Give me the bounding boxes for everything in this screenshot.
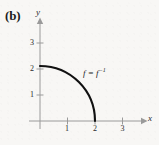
curve-annotation-exponent: −1 (99, 67, 106, 73)
curve-annotation-base: f = f (83, 68, 99, 78)
x-tick-label-2: 2 (90, 125, 100, 133)
x-axis-label: x (148, 114, 152, 123)
y-axis-label: y (36, 8, 40, 17)
y-tick-label-1: 1 (27, 91, 37, 99)
y-axis-arrowhead (37, 18, 43, 25)
x-tick-label-1: 1 (62, 125, 72, 133)
figure-panel-b: (b) y x 1 2 3 1 2 3 f = f−1 (0, 0, 159, 145)
x-tick-label-3: 3 (118, 125, 128, 133)
y-tick-label-3: 3 (27, 39, 37, 47)
x-axis-arrowhead (141, 118, 148, 124)
curve-annotation: f = f−1 (83, 69, 106, 78)
plot-canvas (0, 0, 159, 145)
y-tick-label-2: 2 (27, 65, 37, 73)
